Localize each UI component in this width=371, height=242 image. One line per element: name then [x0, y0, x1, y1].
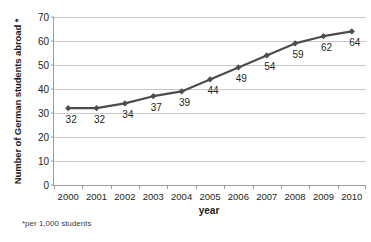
data-label: 49	[236, 73, 247, 84]
data-point-marker	[235, 64, 241, 70]
data-point-marker	[207, 76, 213, 82]
y-axis-title: Number of German students abroad *	[12, 7, 23, 197]
y-tick-label: 40	[38, 84, 49, 95]
data-label: 32	[66, 114, 77, 125]
x-tick-mark	[309, 185, 310, 189]
x-tick-label: 2006	[228, 191, 249, 202]
data-point-marker	[349, 28, 355, 34]
x-tick-label: 2007	[256, 191, 277, 202]
y-tick-label: 60	[38, 36, 49, 47]
x-tick-mark	[281, 185, 282, 189]
x-tick-mark	[82, 185, 83, 189]
y-tick-label: 10	[38, 156, 49, 167]
data-label: 37	[151, 102, 162, 113]
y-tick-label: 0	[43, 180, 49, 191]
data-point-marker	[65, 105, 71, 111]
data-label: 62	[321, 42, 332, 53]
x-tick-label: 2003	[143, 191, 164, 202]
data-point-marker	[292, 40, 298, 46]
x-tick-label: 2009	[313, 191, 334, 202]
data-point-marker	[122, 100, 128, 106]
y-tick-label: 30	[38, 108, 49, 119]
series-markers	[65, 28, 355, 111]
x-tick-mark	[111, 185, 112, 189]
plot-area: 010203040506070 200020012002200320042005…	[53, 17, 366, 186]
data-point-marker	[264, 52, 270, 58]
x-tick-mark	[365, 185, 366, 189]
data-point-marker	[320, 33, 326, 39]
chart-container: Number of German students abroad * 01020…	[0, 0, 371, 242]
series-line-students-abroad	[54, 17, 366, 185]
x-tick-label: 2005	[199, 191, 220, 202]
data-label: 39	[179, 97, 190, 108]
x-tick-mark	[54, 185, 55, 189]
x-axis-title: year	[53, 205, 365, 216]
data-label: 64	[349, 37, 360, 48]
x-tick-mark	[196, 185, 197, 189]
x-tick-mark	[167, 185, 168, 189]
data-label: 34	[122, 109, 133, 120]
y-tick-label: 20	[38, 132, 49, 143]
data-point-marker	[179, 88, 185, 94]
series-polyline	[68, 31, 352, 108]
x-tick-label: 2010	[341, 191, 362, 202]
x-tick-label: 2008	[285, 191, 306, 202]
y-tick-label: 50	[38, 60, 49, 71]
x-tick-label: 2000	[58, 191, 79, 202]
y-tick-label: 70	[38, 12, 49, 23]
x-tick-mark	[139, 185, 140, 189]
x-tick-label: 2001	[86, 191, 107, 202]
x-tick-mark	[224, 185, 225, 189]
x-tick-mark	[253, 185, 254, 189]
footnote: *per 1,000 students	[22, 219, 91, 228]
data-label: 54	[264, 61, 275, 72]
x-tick-label: 2004	[171, 191, 192, 202]
data-label: 59	[293, 49, 304, 60]
data-label: 32	[94, 114, 105, 125]
data-label: 44	[207, 85, 218, 96]
data-point-marker	[150, 93, 156, 99]
x-tick-label: 2002	[114, 191, 135, 202]
x-tick-mark	[338, 185, 339, 189]
data-point-marker	[93, 105, 99, 111]
